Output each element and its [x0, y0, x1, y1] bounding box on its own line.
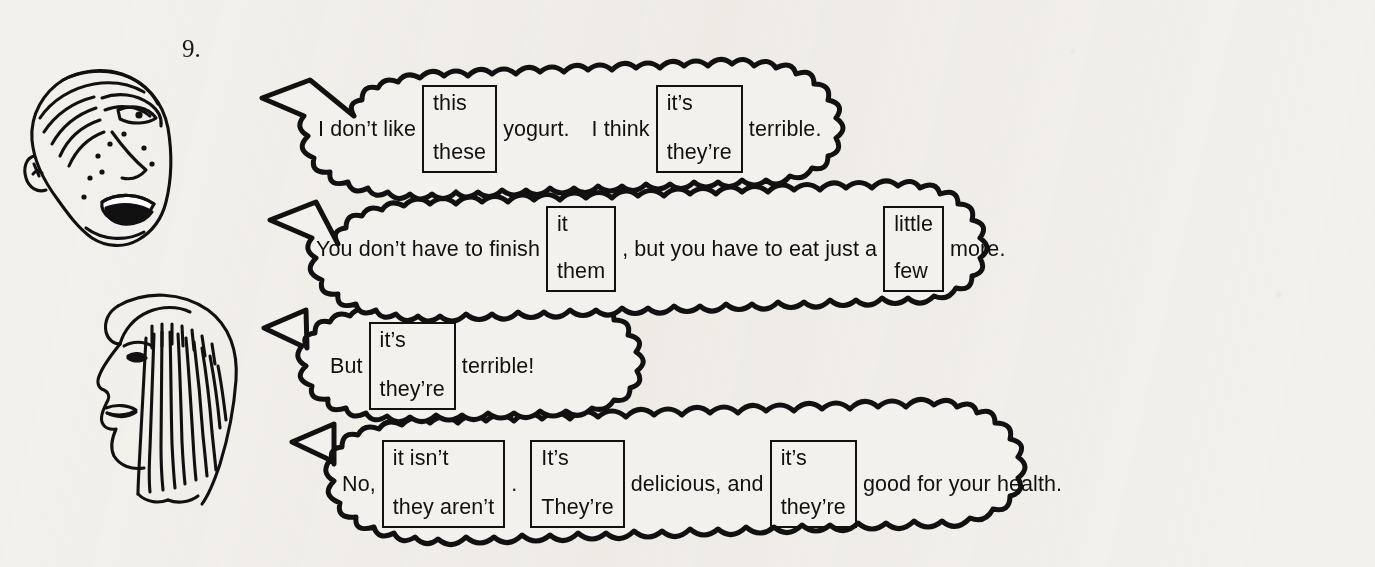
choice-box-its-theyre-1[interactable]: it’s they’re: [656, 85, 743, 173]
bubble-2-segment-4: more.: [950, 237, 1005, 262]
choice-option-bottom[interactable]: They’re: [541, 497, 613, 519]
choice-box-its-theyre-2[interactable]: it’s they’re: [369, 322, 456, 410]
bubble-4-text-line: No, it isn’t they aren’t . It’s They’re …: [342, 440, 1062, 528]
choice-box-little-few[interactable]: little few: [883, 206, 944, 292]
bubble-4-segment-4: delicious, and: [631, 472, 764, 497]
bubble-1-segment-3: I think: [592, 117, 650, 142]
choice-option-bottom[interactable]: few: [894, 261, 933, 283]
choice-option-top[interactable]: it isn’t: [393, 448, 495, 470]
choice-box-its-theyre-3[interactable]: it’s they’re: [770, 440, 857, 528]
bubble-2-text-line: You don’t have to finish it them , but y…: [316, 206, 1005, 292]
bubble-3-segment-0: But: [330, 354, 363, 379]
bubble-3-text-line: But it’s they’re terrible!: [330, 322, 534, 410]
choice-option-bottom[interactable]: these: [433, 142, 486, 164]
choice-option-top[interactable]: it’s: [380, 330, 445, 352]
choice-box-this-these[interactable]: this these: [422, 85, 497, 173]
choice-option-top[interactable]: it’s: [781, 448, 846, 470]
choice-option-bottom[interactable]: they’re: [380, 379, 445, 401]
choice-option-top[interactable]: this: [433, 93, 486, 115]
choice-option-top[interactable]: It’s: [541, 448, 613, 470]
worksheet-page: 9.: [0, 0, 1375, 567]
choice-option-bottom[interactable]: they’re: [781, 497, 846, 519]
choice-option-top[interactable]: it: [557, 214, 605, 236]
choice-option-top[interactable]: it’s: [667, 93, 732, 115]
bubble-4-segment-0: No,: [342, 472, 376, 497]
choice-option-bottom[interactable]: they aren’t: [393, 497, 495, 519]
woman-face-illustration: [62, 282, 262, 512]
choice-box-it-them[interactable]: it them: [546, 206, 616, 292]
bubble-1-segment-5: terrible.: [749, 117, 822, 142]
choice-option-top[interactable]: little: [894, 214, 933, 236]
choice-box-itisnt-theyarent[interactable]: it isn’t they aren’t: [382, 440, 506, 528]
bubble-1-segment-2: yogurt.: [503, 117, 569, 142]
choice-option-bottom[interactable]: they’re: [667, 142, 732, 164]
bubble-4-segment-2: .: [511, 472, 517, 497]
bubble-2-segment-0: You don’t have to finish: [316, 237, 540, 262]
bubble-1-text-line: I don’t like this these yogurt. I think …: [318, 85, 821, 173]
boy-face-illustration: [6, 52, 196, 252]
bubble-2-segment-2: , but you have to eat just a: [622, 237, 877, 262]
bubble-3-segment-2: terrible!: [462, 354, 535, 379]
choice-box-its-theyre-capital[interactable]: It’s They’re: [530, 440, 624, 528]
bubble-1-segment-0: I don’t like: [318, 117, 416, 142]
choice-option-bottom[interactable]: them: [557, 261, 605, 283]
bubble-4-segment-6: good for your health.: [863, 472, 1062, 497]
